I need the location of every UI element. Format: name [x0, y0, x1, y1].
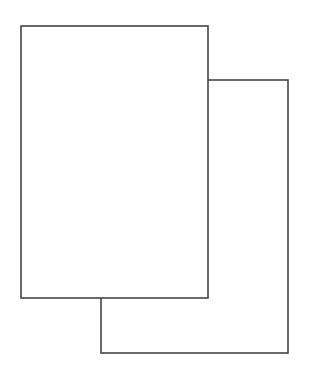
pages-icon	[0, 0, 316, 387]
stacked-pages-diagram	[0, 0, 316, 387]
front-page	[21, 26, 208, 298]
